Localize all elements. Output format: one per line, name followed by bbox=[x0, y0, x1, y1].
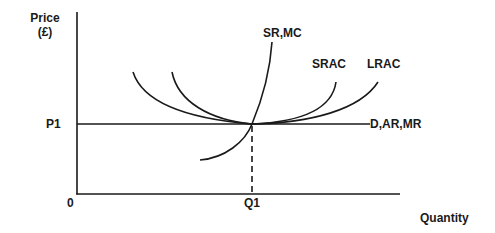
y-axis-label-line2: (£) bbox=[20, 25, 70, 39]
srmc-label: SR,MC bbox=[263, 26, 302, 40]
q1-label: Q1 bbox=[237, 196, 267, 210]
srmc-curve bbox=[200, 42, 272, 160]
y-axis-label: Price (£) bbox=[20, 11, 70, 39]
demand-label: D,AR,MR bbox=[370, 117, 421, 131]
lrac-label: LRAC bbox=[367, 57, 400, 71]
x-axis-label: Quantity bbox=[420, 211, 469, 225]
srac-label: SRAC bbox=[312, 57, 346, 71]
y-axis-label-line1: Price bbox=[20, 11, 70, 25]
origin-label: 0 bbox=[67, 196, 74, 210]
p1-label: P1 bbox=[46, 117, 61, 131]
